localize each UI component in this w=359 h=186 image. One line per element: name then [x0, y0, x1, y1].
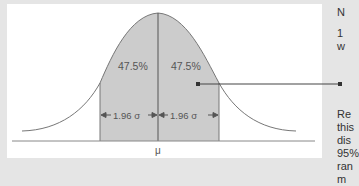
side-heading: N	[337, 6, 345, 19]
right-area-label: 47.5%	[171, 60, 201, 72]
left-area-label: 47.5%	[118, 60, 148, 72]
right-interval-label: 1.96 σ	[170, 110, 197, 121]
mean-label: μ	[155, 145, 161, 156]
side-para-2: this	[337, 121, 354, 134]
side-line-1: 1	[337, 27, 343, 40]
side-para-4: 95%	[337, 147, 359, 160]
side-para-3: dis	[337, 134, 351, 147]
side-line-2: w	[337, 40, 345, 53]
left-interval-label: 1.96 σ	[113, 110, 140, 121]
side-para-5: ran	[337, 160, 353, 173]
side-para-1: Re	[337, 108, 351, 121]
side-para-6: m	[337, 173, 346, 186]
shaded-area	[100, 13, 219, 141]
